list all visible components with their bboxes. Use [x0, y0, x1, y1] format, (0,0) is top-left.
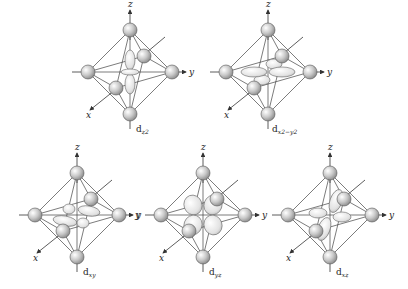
- ligand-bottom: [123, 107, 137, 121]
- z-label: z: [327, 142, 333, 152]
- panel-dxy: z y x dxy: [19, 142, 142, 279]
- ligand-bottom: [196, 250, 210, 264]
- ligand-right: [238, 208, 252, 222]
- panel-dx2-y2: z y x dx2−y2: [210, 0, 333, 136]
- orbital-label: dyz: [209, 267, 222, 279]
- d-orbitals-figure: z y x dz2 z: [0, 0, 408, 289]
- y-label: y: [261, 210, 268, 220]
- y-label: y: [388, 210, 395, 220]
- ligand-left: [154, 208, 168, 222]
- ligand-back: [137, 49, 151, 63]
- ligand-left: [28, 208, 42, 222]
- ligand-right: [112, 208, 126, 222]
- panel-dz2: z y x dz2: [72, 0, 195, 135]
- ligand-back: [275, 49, 289, 63]
- ligand-right: [165, 65, 179, 79]
- ligand-left: [219, 65, 233, 79]
- orbital-label: dz2: [136, 124, 149, 135]
- ligand-left: [81, 65, 95, 79]
- ligand-top: [323, 166, 337, 180]
- ligand-back: [337, 192, 351, 206]
- ligand-front: [109, 81, 123, 95]
- ligand-top: [70, 166, 84, 180]
- ligand-front: [247, 81, 261, 95]
- ligand-left: [281, 208, 295, 222]
- ligand-bottom: [261, 107, 275, 121]
- ligand-back: [210, 192, 224, 206]
- x-label: x: [159, 253, 164, 263]
- ligand-front: [309, 224, 323, 238]
- ligand-top: [196, 166, 210, 180]
- orbital-label: dxy: [83, 267, 96, 279]
- z-label: z: [127, 0, 133, 9]
- y-label: y: [326, 67, 333, 77]
- ligand-front: [182, 224, 196, 238]
- orbital-label: dx2−y2: [272, 124, 297, 136]
- ligand-bottom: [70, 250, 84, 264]
- panel-dxz: z y x dxz: [272, 142, 395, 278]
- ligand-right: [303, 65, 317, 79]
- z-label: z: [265, 0, 271, 9]
- x-label: x: [86, 110, 91, 120]
- y-label-left: y: [134, 210, 141, 220]
- y-label: y: [188, 67, 195, 77]
- ligand-top: [261, 23, 275, 37]
- z-label: z: [200, 142, 206, 152]
- x-label: x: [286, 253, 291, 263]
- panel-dyz: z y y x dyz: [134, 142, 268, 279]
- ligand-top: [123, 23, 137, 37]
- x-label: x: [224, 110, 229, 120]
- orbital-dxy: [52, 204, 100, 228]
- ligand-back: [84, 192, 98, 206]
- orbital-label: dxz: [336, 267, 349, 278]
- z-label: z: [74, 142, 80, 152]
- ligand-right: [365, 208, 379, 222]
- ligand-bottom: [323, 250, 337, 264]
- x-label: x: [33, 253, 38, 263]
- ligand-front: [56, 224, 70, 238]
